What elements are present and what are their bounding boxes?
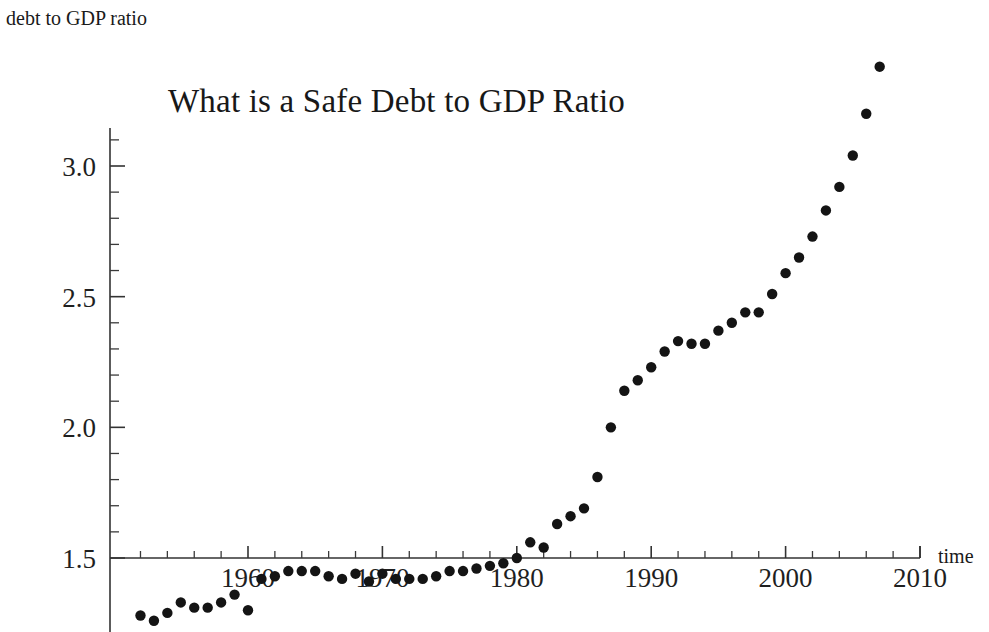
data-point xyxy=(256,574,266,584)
data-point xyxy=(821,205,831,215)
y-tick-label: 1.5 xyxy=(62,544,96,574)
y-tick-label: 2.0 xyxy=(62,413,96,443)
data-point xyxy=(149,616,159,626)
data-point xyxy=(283,566,293,576)
data-point xyxy=(874,61,884,71)
data-point xyxy=(498,558,508,568)
x-tick-label: 1980 xyxy=(490,563,544,593)
data-point xyxy=(754,307,764,317)
data-point xyxy=(794,252,804,262)
chart-figure: debt to GDP ratio What is a Safe Debt to… xyxy=(0,0,989,632)
data-point xyxy=(848,150,858,160)
data-point xyxy=(229,589,239,599)
x-tick-label: 1960 xyxy=(221,563,275,593)
data-point xyxy=(350,568,360,578)
scatter-plot-canvas: 1.52.02.53.0 196019701980199020002010 xyxy=(0,0,989,632)
data-point xyxy=(471,563,481,573)
data-point xyxy=(579,503,589,513)
data-point xyxy=(337,574,347,584)
x-tick-label: 2010 xyxy=(893,563,947,593)
data-point xyxy=(485,561,495,571)
data-point xyxy=(727,318,737,328)
data-point xyxy=(243,605,253,615)
x-tick-label: 2000 xyxy=(759,563,813,593)
data-point xyxy=(444,566,454,576)
data-point xyxy=(323,571,333,581)
data-point xyxy=(700,339,710,349)
data-point xyxy=(525,537,535,547)
data-point xyxy=(270,571,280,581)
y-axis: 1.52.02.53.0 xyxy=(62,128,125,632)
data-point xyxy=(861,109,871,119)
data-point xyxy=(673,336,683,346)
data-point xyxy=(807,231,817,241)
data-point xyxy=(713,325,723,335)
data-point xyxy=(767,289,777,299)
data-point xyxy=(176,597,186,607)
data-point xyxy=(202,602,212,612)
data-point xyxy=(538,542,548,552)
data-point xyxy=(740,307,750,317)
data-point xyxy=(619,386,629,396)
x-tick-label: 1990 xyxy=(624,563,678,593)
x-axis: 196019701980199020002010 xyxy=(110,546,947,593)
data-point xyxy=(189,602,199,612)
data-point xyxy=(565,511,575,521)
data-point xyxy=(162,608,172,618)
data-point xyxy=(391,574,401,584)
data-point xyxy=(135,610,145,620)
data-point xyxy=(377,568,387,578)
data-point xyxy=(458,566,468,576)
data-point xyxy=(404,574,414,584)
data-point xyxy=(364,576,374,586)
data-point xyxy=(431,571,441,581)
data-point xyxy=(780,268,790,278)
data-point xyxy=(552,519,562,529)
data-point xyxy=(216,597,226,607)
data-point xyxy=(686,339,696,349)
data-point xyxy=(834,182,844,192)
data-point xyxy=(633,375,643,385)
y-tick-label: 2.5 xyxy=(62,283,96,313)
data-point xyxy=(418,574,428,584)
data-point xyxy=(592,472,602,482)
data-point xyxy=(512,553,522,563)
data-point xyxy=(310,566,320,576)
data-point xyxy=(606,422,616,432)
y-tick-label: 3.0 xyxy=(62,152,96,182)
data-point xyxy=(297,566,307,576)
data-points xyxy=(135,61,885,625)
data-point xyxy=(646,362,656,372)
data-point xyxy=(659,346,669,356)
